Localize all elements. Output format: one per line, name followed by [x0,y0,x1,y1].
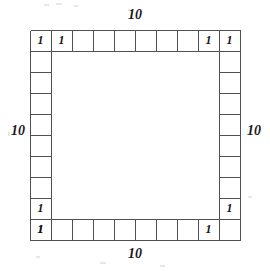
square-grid: 111111111 [30,30,241,241]
dimension-label-top: 10 [0,7,270,23]
dimension-label-bottom: 10 [0,246,270,262]
cell-label-left-10: 1 [30,219,51,240]
dimension-label-right: 10 [242,123,266,139]
cell-label-bottom-9: 1 [198,219,219,240]
cell-label-top-10: 1 [219,30,240,51]
dimension-label-left: 10 [6,123,30,139]
cell-label-top-2: 1 [51,30,72,51]
cell-label-top-9: 1 [198,30,219,51]
cell-label-right-9: 1 [219,198,240,219]
cell-label-left-9: 1 [30,198,51,219]
grid-lines [30,30,241,241]
geometry-figure: 10 10 10 10 111111111 [0,0,270,271]
cell-label-top-1: 1 [30,30,51,51]
